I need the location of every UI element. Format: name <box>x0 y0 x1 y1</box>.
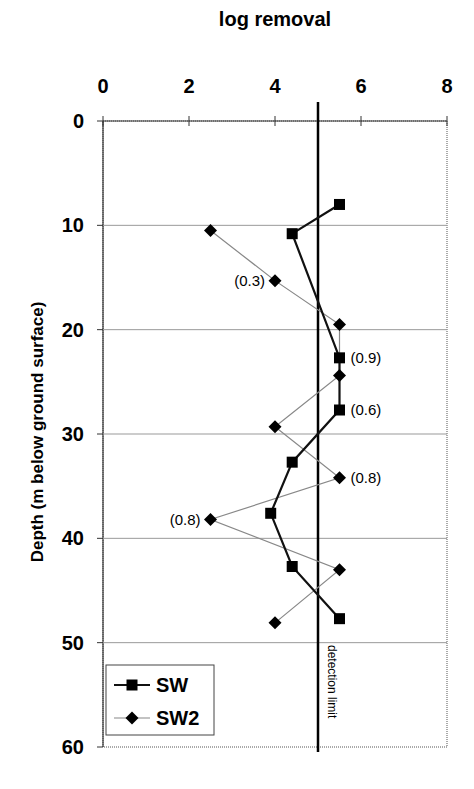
diamond-marker <box>204 224 217 237</box>
y-tick-label: 20 <box>62 319 84 341</box>
legend-square-marker <box>127 680 138 691</box>
y-tick-label: 0 <box>73 110 84 132</box>
chart-plot: 02468 0102030405060 detection limit (0.3… <box>0 0 474 789</box>
y-tick-label: 30 <box>62 423 84 445</box>
square-marker <box>287 228 298 239</box>
legend-label-sw2: SW2 <box>156 707 199 729</box>
legend-label-sw: SW <box>156 674 188 696</box>
x-tick-label: 8 <box>441 75 452 97</box>
diamond-marker <box>204 513 217 526</box>
data-annotation: (0.8) <box>351 469 382 486</box>
diamond-marker <box>333 318 346 331</box>
x-tick-label: 0 <box>97 75 108 97</box>
square-marker <box>334 199 345 210</box>
square-marker <box>287 561 298 572</box>
x-tick-label: 4 <box>269 75 281 97</box>
y-tick-label: 10 <box>62 214 84 236</box>
x-tick-label: 2 <box>183 75 194 97</box>
diamond-marker <box>333 563 346 576</box>
x-tick-label: 6 <box>355 75 366 97</box>
square-marker <box>334 352 345 363</box>
diamond-marker <box>269 420 282 433</box>
gridlines <box>103 225 447 642</box>
y-tick-label: 40 <box>62 527 84 549</box>
diamond-marker <box>333 369 346 382</box>
square-marker <box>334 405 345 416</box>
square-marker <box>334 613 345 624</box>
y-tick-label: 60 <box>62 736 84 758</box>
legend: SWSW2 <box>106 665 214 735</box>
diamond-marker <box>333 471 346 484</box>
data-annotations: (0.3)(0.9)(0.6)(0.8)(0.8) <box>170 272 382 528</box>
detection-limit-label: detection limit <box>325 645 339 719</box>
diamond-marker <box>269 274 282 287</box>
data-series <box>204 199 346 629</box>
data-annotation: (0.9) <box>351 349 382 366</box>
y-axis-ticks: 0102030405060 <box>62 110 103 758</box>
x-axis-ticks: 02468 <box>97 75 452 126</box>
square-marker <box>265 508 276 519</box>
y-tick-label: 50 <box>62 632 84 654</box>
data-annotation: (0.6) <box>351 401 382 418</box>
data-annotation: (0.8) <box>170 511 201 528</box>
diamond-marker <box>269 616 282 629</box>
data-annotation: (0.3) <box>234 272 265 289</box>
square-marker <box>287 457 298 468</box>
